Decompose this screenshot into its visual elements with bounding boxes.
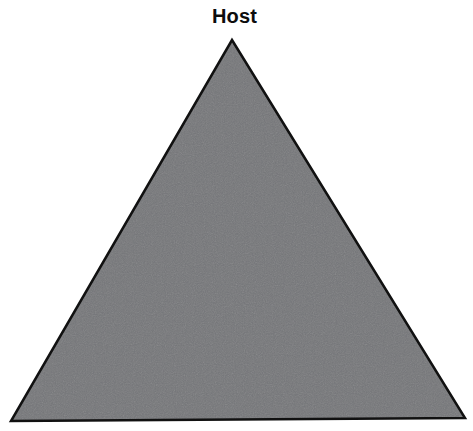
triangle-diagram <box>0 0 473 431</box>
triangle-grain-texture <box>0 0 473 431</box>
apex-label-text: Host <box>212 5 257 27</box>
figure-canvas: Host <box>0 0 473 431</box>
apex-label: Host <box>0 4 473 28</box>
